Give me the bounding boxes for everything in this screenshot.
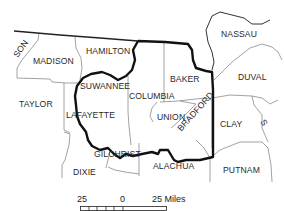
study-area-boundary (75, 41, 213, 162)
county-label-dixie: DIXIE (73, 168, 96, 177)
scale-left-label: 25 (77, 195, 87, 204)
nassau-west-boundary (206, 30, 214, 70)
county-label-columbia: COLUMBIA (129, 92, 175, 101)
county-label-hamilton: HAMILTON (86, 47, 130, 56)
county-label-nassau: NASSAU (221, 30, 257, 39)
county-label-baker: BAKER (170, 75, 200, 84)
nassau-north-boundary (206, 12, 270, 30)
county-label-putnam: PUTNAM (223, 166, 260, 175)
county-label-lafayette: LAFAYETTE (66, 111, 115, 120)
county-label-suwannee: SUWANNEE (80, 82, 130, 91)
scale-right-label: 25 Miles (152, 195, 186, 204)
county-label-clay: CLAY (220, 120, 242, 129)
county-label-duval: DUVAL (238, 73, 267, 82)
state-line (14, 31, 138, 41)
scale-bar-graphic (80, 206, 170, 211)
county-label-madison: MADISON (33, 57, 74, 66)
scale-center-label: 0 (120, 195, 125, 204)
county-label-taylor: TAYLOR (19, 100, 53, 109)
county-label-alachua: ALACHUA (153, 162, 194, 171)
county-label-gilchrist: GILCHRIST (94, 150, 141, 159)
